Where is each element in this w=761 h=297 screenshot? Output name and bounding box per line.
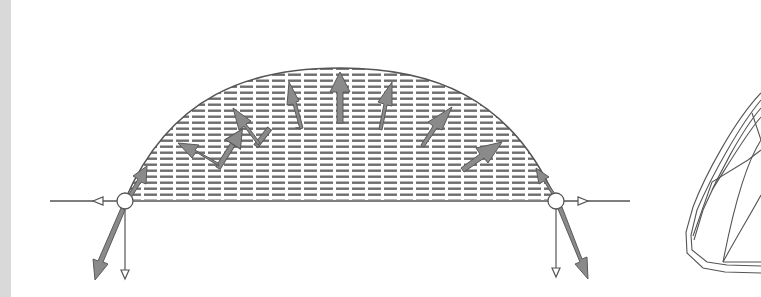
hinge-icon — [117, 193, 133, 209]
right-support — [548, 193, 588, 279]
reaction-arrow-vertical-down — [552, 268, 560, 277]
reaction-arrow-inclined — [558, 207, 588, 279]
hinge-icon — [548, 193, 564, 209]
shell-wireframe — [686, 93, 761, 273]
arch-pressure-diagram — [0, 0, 761, 297]
reaction-arrow-horizontal-right — [578, 197, 588, 205]
reaction-arrow-horizontal-left — [93, 197, 103, 205]
reaction-arrow-inclined — [93, 208, 125, 280]
left-support — [93, 193, 133, 280]
reaction-arrow-vertical-down — [121, 270, 129, 279]
